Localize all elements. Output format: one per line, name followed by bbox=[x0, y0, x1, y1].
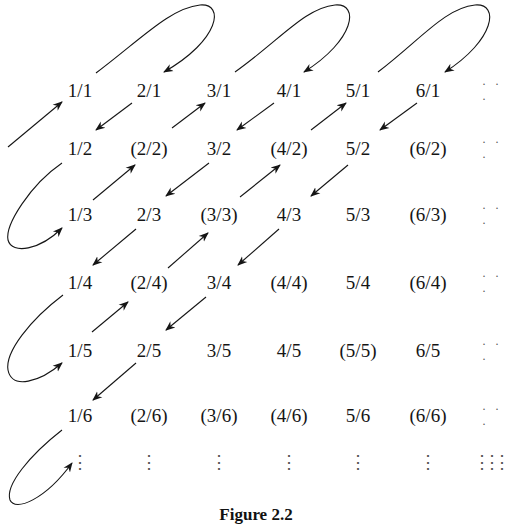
fraction-3-1: 3/1 bbox=[207, 81, 231, 100]
column-ellipsis: ⋮ bbox=[71, 453, 89, 471]
column-ellipsis: ⋮ bbox=[419, 453, 437, 471]
fraction-1-4: 1/4 bbox=[68, 273, 92, 292]
fraction-4-5: 4/5 bbox=[277, 341, 301, 360]
fraction-2-2: (2/2) bbox=[131, 139, 168, 158]
fraction-6-5: 6/5 bbox=[416, 341, 440, 360]
row-ellipsis: · · · bbox=[482, 402, 502, 432]
column-ellipsis: ⋮ bbox=[349, 453, 367, 471]
fraction-2-5: 2/5 bbox=[137, 341, 161, 360]
row-ellipsis: · · · bbox=[482, 337, 502, 367]
row-ellipsis: · · · bbox=[482, 269, 502, 299]
fraction-6-4: (6/4) bbox=[410, 273, 447, 292]
fraction-4-2: (4/2) bbox=[271, 139, 308, 158]
fraction-1-1: 1/1 bbox=[68, 81, 92, 100]
row-ellipsis: · · · bbox=[482, 201, 502, 231]
fraction-3-4: 3/4 bbox=[207, 273, 231, 292]
fraction-5-3: 5/3 bbox=[346, 205, 370, 224]
fraction-5-5: (5/5) bbox=[340, 341, 377, 360]
fraction-5-4: 5/4 bbox=[346, 273, 370, 292]
fraction-5-1: 5/1 bbox=[346, 81, 370, 100]
fraction-4-4: (4/4) bbox=[271, 273, 308, 292]
fraction-5-6: 5/6 bbox=[346, 406, 370, 425]
fraction-6-6: (6/6) bbox=[410, 406, 447, 425]
fraction-1-2: 1/2 bbox=[68, 139, 92, 158]
fraction-2-1: 2/1 bbox=[137, 81, 161, 100]
fraction-2-4: (2/4) bbox=[131, 273, 168, 292]
figure-caption: Figure 2.2 bbox=[219, 505, 292, 525]
fraction-6-3: (6/3) bbox=[410, 205, 447, 224]
fraction-4-1: 4/1 bbox=[277, 81, 301, 100]
fraction-1-6: 1/6 bbox=[68, 406, 92, 425]
column-ellipsis: ⋮ bbox=[140, 453, 158, 471]
fraction-1-3: 1/3 bbox=[68, 205, 92, 224]
column-ellipsis: ⋮ bbox=[210, 453, 228, 471]
row-ellipsis: · · · bbox=[482, 135, 502, 165]
loop-1-1-to-2-1 bbox=[96, 5, 214, 73]
fraction-3-2: 3/2 bbox=[207, 139, 231, 158]
fraction-6-1: 6/1 bbox=[416, 81, 440, 100]
fraction-5-2: 5/2 bbox=[346, 139, 370, 158]
fraction-2-3: 2/3 bbox=[137, 205, 161, 224]
fraction-4-3: 4/3 bbox=[277, 205, 301, 224]
column-ellipsis: ⋮ bbox=[280, 453, 298, 471]
fraction-1-5: 1/5 bbox=[68, 341, 92, 360]
fraction-6-2: (6/2) bbox=[410, 139, 447, 158]
fraction-2-6: (2/6) bbox=[131, 406, 168, 425]
column-ellipsis: ⋮ bbox=[493, 453, 511, 471]
row-ellipsis: · · · bbox=[482, 77, 502, 107]
fraction-3-3: (3/3) bbox=[201, 205, 238, 224]
fraction-3-5: 3/5 bbox=[207, 341, 231, 360]
fraction-4-6: (4/6) bbox=[271, 406, 308, 425]
arrow-start-to-1-1 bbox=[8, 102, 62, 147]
fraction-3-6: (3/6) bbox=[201, 406, 238, 425]
